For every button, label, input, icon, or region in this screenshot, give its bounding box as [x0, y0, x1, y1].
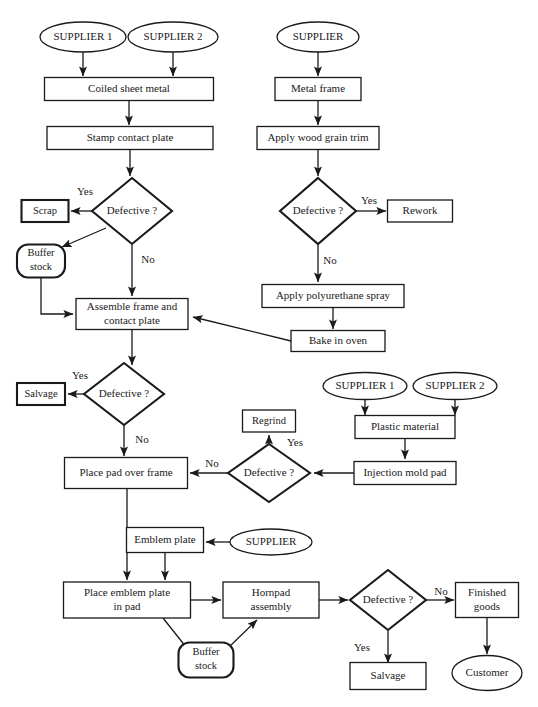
edge-defective1-buffer1 [62, 228, 106, 247]
node-assemble[interactable]: Assemble frame andcontact plate [76, 299, 188, 330]
flowchart-svg: SUPPLIER 1SUPPLIER 2SUPPLIERCoiled sheet… [0, 0, 538, 707]
node-label: Scrap [33, 205, 57, 216]
node-salvage1[interactable]: Salvage [17, 383, 65, 405]
node-label: Regrind [252, 415, 287, 426]
node-salvage2[interactable]: Salvage [350, 663, 426, 690]
node-label: SUPPLIER 1 [54, 30, 113, 42]
node-label: Defective ? [99, 387, 149, 399]
node-label: Buffer [27, 247, 55, 258]
node-def5[interactable]: Defective ? [350, 570, 426, 630]
node-sup_emblem[interactable]: SUPPLIER [230, 529, 312, 555]
node-sup1_plas[interactable]: SUPPLIER 1 [323, 373, 407, 400]
node-label: Salvage [24, 388, 58, 399]
node-sup_frame[interactable]: SUPPLIER [277, 22, 359, 52]
node-rework[interactable]: Rework [388, 200, 453, 222]
node-label: Place pad over frame [79, 466, 172, 478]
node-label: Stamp contact plate [87, 131, 174, 143]
node-scrap[interactable]: Scrap [22, 200, 69, 222]
node-label: Plastic material [371, 420, 439, 432]
node-metalframe[interactable]: Metal frame [275, 78, 361, 101]
edge-bake-assemble [193, 317, 291, 341]
node-label: SUPPLIER 2 [426, 379, 485, 391]
node-polyspray[interactable]: Apply polyurethane spray [262, 285, 404, 308]
node-label: SUPPLIER 2 [144, 30, 203, 42]
edge-label-yes3: Yes [72, 369, 88, 381]
node-def1[interactable]: Defective ? [92, 178, 172, 244]
node-regrind[interactable]: Regrind [243, 410, 296, 432]
edge-label-yes1: Yes [77, 185, 93, 197]
node-def4[interactable]: Defective ? [228, 444, 310, 502]
edge-label-no2: No [323, 254, 337, 266]
node-label: Injection mold pad [363, 466, 447, 478]
node-label: goods [474, 600, 500, 612]
node-label: Defective ? [107, 204, 157, 216]
node-coiled[interactable]: Coiled sheet metal [45, 78, 214, 101]
node-sup2_plas[interactable]: SUPPLIER 2 [413, 373, 497, 400]
node-bake[interactable]: Bake in oven [291, 331, 385, 352]
node-finished[interactable]: Finishedgoods [456, 583, 519, 618]
node-buffer2[interactable]: Bufferstock [179, 643, 234, 678]
edge-label-no4: No [205, 457, 219, 469]
node-def3[interactable]: Defective ? [84, 363, 164, 425]
node-label: in pad [113, 600, 141, 612]
edge-buffer1-assemble [41, 278, 73, 314]
node-label: Bake in oven [309, 334, 368, 346]
node-stamp[interactable]: Stamp contact plate [47, 127, 213, 150]
node-label: SUPPLIER [246, 535, 297, 547]
node-label: Buffer [192, 646, 220, 657]
edge-label-yes2: Yes [361, 194, 377, 206]
node-label: Apply wood grain trim [267, 131, 369, 143]
node-label: Finished [468, 586, 506, 598]
flowchart-canvas: SUPPLIER 1SUPPLIER 2SUPPLIERCoiled sheet… [0, 0, 538, 707]
node-label: Defective ? [363, 593, 413, 605]
node-label: Salvage [371, 669, 406, 681]
node-sup1_top[interactable]: SUPPLIER 1 [40, 22, 126, 52]
node-placepad[interactable]: Place pad over frame [65, 458, 188, 489]
node-label: SUPPLIER [293, 30, 344, 42]
node-label: Rework [403, 204, 438, 216]
node-label: contact plate [104, 314, 160, 326]
node-buffer1[interactable]: Bufferstock [17, 245, 65, 278]
node-hornpad[interactable]: Hornpadassembly [223, 582, 319, 618]
node-label: Defective ? [293, 204, 343, 216]
node-woodgrain[interactable]: Apply wood grain trim [257, 127, 379, 150]
node-sup2_top[interactable]: SUPPLIER 2 [128, 22, 218, 52]
node-label: Metal frame [291, 82, 345, 94]
node-label: Customer [466, 666, 509, 678]
edge-label-yes4: Yes [287, 436, 303, 448]
edge-label-yes5: Yes [354, 641, 370, 653]
edge-label-no1: No [141, 253, 155, 265]
edge-label-no5: No [434, 585, 448, 597]
node-plastic[interactable]: Plastic material [355, 416, 455, 439]
node-label: stock [30, 261, 53, 272]
node-label: Place emblem plate [84, 586, 170, 598]
edge-buffer2-hornpad [228, 620, 257, 648]
node-injection[interactable]: Injection mold pad [354, 462, 456, 485]
node-label: Defective ? [244, 466, 294, 478]
node-label: Hornpad [252, 586, 291, 598]
node-label: Coiled sheet metal [88, 82, 170, 94]
node-emblem[interactable]: Emblem plate [127, 528, 204, 553]
node-def2[interactable]: Defective ? [280, 178, 356, 244]
node-label: stock [195, 660, 218, 671]
node-label: Emblem plate [134, 533, 196, 545]
node-customer[interactable]: Customer [452, 656, 522, 691]
node-label: SUPPLIER 1 [336, 379, 395, 391]
edge-label-no3: No [135, 433, 149, 445]
node-label: Apply polyurethane spray [276, 289, 391, 301]
node-label: Assemble frame and [87, 300, 178, 312]
node-placeemblem[interactable]: Place emblem platein pad [64, 582, 191, 618]
node-label: assembly [251, 600, 292, 612]
